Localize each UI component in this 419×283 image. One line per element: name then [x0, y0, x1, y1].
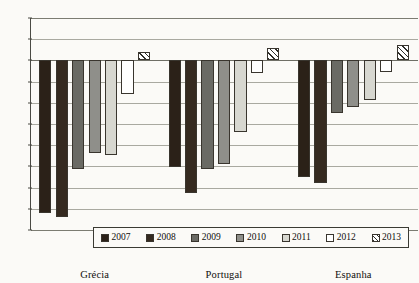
legend: 2007200820092010201120122013	[93, 227, 409, 248]
legend-label: 2012	[337, 233, 356, 243]
bar-portugal-2010	[218, 60, 230, 164]
legend-item-2010: 2010	[236, 233, 266, 243]
bar-chart: 420-2-4-6-8-10-12-14-16 GréciaPortugalEs…	[0, 0, 419, 283]
bar-portugal-2012	[251, 60, 263, 73]
bar-grécia-2009	[72, 60, 84, 168]
y-axis-tick-mark	[28, 60, 32, 61]
bar-espanha-2010	[347, 60, 359, 107]
legend-label: 2009	[202, 233, 221, 243]
y-axis-tick-mark	[28, 145, 32, 146]
legend-item-2012: 2012	[326, 233, 356, 243]
legend-swatch-icon-2013	[372, 234, 380, 242]
y-axis-tick-mark	[28, 208, 32, 209]
gridline--14	[31, 209, 418, 210]
legend-swatch-icon-2009	[191, 234, 199, 242]
bar-grécia-2012	[121, 60, 133, 94]
bar-espanha-2009	[331, 60, 343, 113]
legend-label: 2007	[112, 233, 131, 243]
bar-grécia-2008	[56, 60, 68, 217]
bar-grécia-2010	[89, 60, 101, 152]
gridline--10	[31, 166, 418, 167]
legend-swatch-icon-2007	[101, 234, 109, 242]
gridline-4	[31, 18, 418, 19]
gridline-2	[31, 39, 418, 40]
y-axis-tick-mark	[28, 187, 32, 188]
legend-label: 2011	[292, 233, 311, 243]
legend-item-2008: 2008	[146, 233, 176, 243]
y-axis-tick-mark	[28, 39, 32, 40]
legend-item-2007: 2007	[101, 233, 131, 243]
legend-item-2009: 2009	[191, 233, 221, 243]
bar-grécia-2013	[138, 52, 150, 60]
bar-portugal-2008	[185, 60, 197, 193]
bar-espanha-2011	[364, 60, 376, 99]
bar-espanha-2013	[397, 45, 409, 61]
legend-label: 2010	[247, 233, 266, 243]
bar-espanha-2008	[314, 60, 326, 183]
category-label-espanha: Espanha	[289, 269, 418, 280]
legend-label: 2013	[382, 233, 401, 243]
category-label-portugal: Portugal	[159, 269, 288, 280]
legend-swatch-icon-2010	[236, 234, 244, 242]
y-axis-tick-mark	[28, 166, 32, 167]
y-axis-tick-mark	[28, 18, 32, 19]
y-axis-tick-mark	[28, 81, 32, 82]
bar-portugal-2013	[267, 48, 279, 61]
bar-espanha-2007	[298, 60, 310, 177]
bar-espanha-2012	[380, 60, 392, 72]
y-axis-tick-mark	[28, 102, 32, 103]
legend-swatch-icon-2012	[326, 234, 334, 242]
legend-item-2013: 2013	[372, 233, 402, 243]
bar-portugal-2011	[234, 60, 246, 132]
legend-item-2011: 2011	[282, 233, 311, 243]
legend-swatch-icon-2008	[146, 234, 154, 242]
y-axis-tick-mark	[28, 124, 32, 125]
bar-portugal-2009	[201, 60, 213, 168]
bar-grécia-2011	[105, 60, 117, 154]
gridline--12	[31, 188, 418, 189]
legend-swatch-icon-2011	[282, 234, 290, 242]
category-label-grécia: Grécia	[30, 269, 159, 280]
bar-portugal-2007	[169, 60, 181, 167]
bar-grécia-2007	[39, 60, 51, 213]
legend-label: 2008	[157, 233, 176, 243]
y-axis-tick-mark	[28, 230, 32, 231]
